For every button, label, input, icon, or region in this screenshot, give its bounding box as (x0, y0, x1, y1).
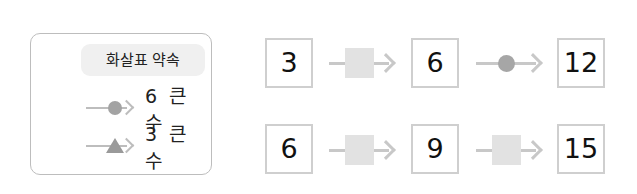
blank-arrow-connector[interactable] (329, 48, 395, 78)
number-box: 9 (411, 124, 459, 174)
circle-arrow-connector (476, 48, 542, 78)
blank-arrow-connector[interactable] (476, 135, 542, 165)
legend-item-label: 3 큰 수 (145, 119, 211, 173)
legend-item-circle: 6 큰 수 (86, 96, 211, 120)
number-box: 6 (411, 38, 459, 88)
arrow-rules-legend: 화살표 약속 6 큰 수 3 큰 수 (30, 33, 212, 175)
circle-arrow-icon (86, 98, 133, 118)
blank-square-icon[interactable] (345, 48, 374, 78)
number-box: 6 (265, 124, 313, 174)
blank-square-icon[interactable] (345, 135, 374, 165)
circle-icon (498, 55, 515, 72)
number-box: 12 (557, 38, 605, 88)
triangle-arrow-icon (86, 136, 133, 156)
legend-title: 화살표 약속 (81, 44, 205, 76)
number-box: 15 (557, 124, 605, 174)
blank-arrow-connector[interactable] (329, 135, 395, 165)
number-box: 3 (265, 38, 313, 88)
blank-square-icon[interactable] (492, 135, 521, 165)
legend-item-triangle: 3 큰 수 (86, 134, 211, 158)
